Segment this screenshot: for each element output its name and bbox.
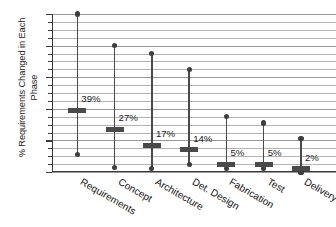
y-tick-major: [46, 140, 52, 141]
y-tick-minor: [48, 22, 52, 23]
min-marker: [112, 165, 117, 170]
median-marker: [68, 108, 86, 113]
max-marker: [298, 136, 303, 141]
x-tick-label: Delivery: [302, 176, 308, 186]
y-tick-minor: [48, 69, 52, 70]
gridline: [52, 69, 336, 70]
gridline: [52, 14, 336, 15]
gridline: [52, 85, 336, 86]
y-tick-minor: [48, 38, 52, 39]
y-tick-minor: [48, 125, 52, 126]
value-label: 39%: [81, 93, 100, 104]
plot-area: 39%27%17%14%5%5%2%: [52, 14, 336, 172]
gridline: [52, 77, 336, 78]
range-stem: [77, 14, 79, 155]
max-marker: [75, 11, 80, 16]
median-marker: [143, 143, 161, 148]
value-label: 5%: [230, 147, 244, 158]
y-tick-minor: [48, 30, 52, 31]
y-tick-minor: [48, 164, 52, 165]
gridline: [52, 125, 336, 126]
gridline: [52, 117, 336, 118]
y-tick-minor: [48, 101, 52, 102]
y-tick-minor: [48, 61, 52, 62]
median-marker: [180, 147, 198, 152]
range-stem: [114, 46, 116, 168]
y-tick-minor: [48, 133, 52, 134]
value-label: 17%: [156, 128, 175, 139]
gridline: [52, 54, 336, 55]
x-tick-label: Fabrication: [228, 176, 234, 186]
y-axis-line: [52, 14, 53, 172]
gridline: [52, 156, 336, 157]
range-stem: [151, 54, 153, 169]
gridline: [52, 172, 336, 173]
gridline: [52, 30, 336, 31]
value-label: 14%: [193, 132, 212, 143]
y-tick-minor: [48, 54, 52, 55]
value-label: 5%: [268, 147, 282, 158]
x-tick-label: Det. Design: [191, 176, 197, 186]
value-label: 2%: [305, 151, 319, 162]
gridline: [52, 22, 336, 23]
y-tick-minor: [48, 148, 52, 149]
y-tick-major: [46, 14, 52, 15]
gridline: [52, 38, 336, 39]
median-marker: [217, 162, 235, 167]
gridline: [52, 164, 336, 165]
gridline: [52, 61, 336, 62]
x-tick-label: Requirements: [79, 176, 85, 186]
y-tick-major: [46, 109, 52, 110]
y-tick-major: [46, 172, 52, 173]
max-marker: [187, 67, 192, 72]
y-tick-minor: [48, 117, 52, 118]
x-tick-label: Test: [265, 176, 271, 186]
median-marker: [292, 166, 310, 171]
median-marker: [255, 162, 273, 167]
median-marker: [106, 127, 124, 132]
y-tick-major: [46, 77, 52, 78]
x-tick-label: Architecture: [153, 176, 159, 186]
min-marker: [187, 162, 192, 167]
x-tick-label: Concept: [116, 176, 122, 186]
y-tick-major: [46, 46, 52, 47]
gridline: [52, 46, 336, 47]
gridline: [52, 109, 336, 110]
y-tick-minor: [48, 85, 52, 86]
max-marker: [261, 120, 266, 125]
y-tick-minor: [48, 93, 52, 94]
chart-container: % Requirements Changed in Each Phase 39%…: [0, 0, 336, 227]
y-tick-minor: [48, 156, 52, 157]
y-axis-title: % Requirements Changed in Each Phase: [17, 8, 40, 168]
value-label: 27%: [119, 112, 138, 123]
